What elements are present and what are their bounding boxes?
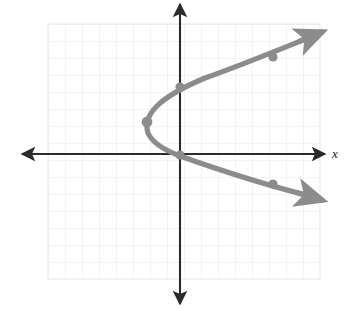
point-y-intercept-upper — [175, 82, 184, 91]
graph-canvas: x — [0, 0, 345, 311]
point-vertex — [142, 117, 153, 128]
point-origin — [175, 150, 184, 159]
coordinate-graph: x — [0, 0, 345, 311]
x-axis-label: x — [331, 146, 338, 161]
grid-area — [48, 24, 320, 279]
point-upper-right — [268, 52, 277, 61]
point-lower-right — [268, 179, 277, 188]
grid-lines — [48, 24, 320, 279]
